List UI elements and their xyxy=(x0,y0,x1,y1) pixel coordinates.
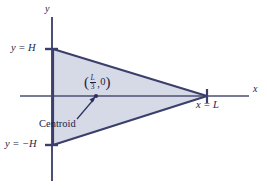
coord-open-paren: ( xyxy=(84,75,89,90)
coord-close-paren: ) xyxy=(106,75,111,90)
figure-canvas xyxy=(0,0,267,188)
label-y-equals-minus-h: y = −H xyxy=(5,139,37,150)
label-x-equals-l: x = L xyxy=(196,100,219,111)
coord-fraction: L 3 xyxy=(90,74,96,91)
triangle-region xyxy=(53,49,207,145)
label-centroid-coordinates: ( L 3 , 0 ) xyxy=(84,74,111,91)
centroid-triangle-figure: y x y = H y = −H x = L Centroid ( L 3 , … xyxy=(0,0,267,188)
x-axis-label: x xyxy=(253,84,257,94)
label-centroid: Centroid xyxy=(39,119,76,130)
label-y-equals-h: y = H xyxy=(11,43,36,54)
coord-fraction-denominator: 3 xyxy=(90,83,96,91)
y-axis-label: y xyxy=(45,4,49,14)
coord-fraction-numerator: L xyxy=(90,74,96,82)
